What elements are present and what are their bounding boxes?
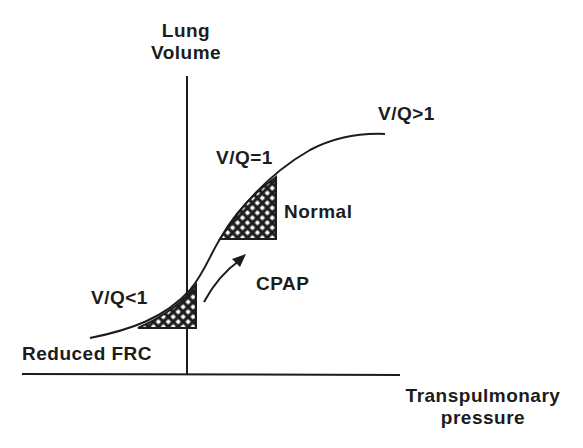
y-axis-label-line2: Volume xyxy=(148,42,224,64)
cpap-arrow xyxy=(204,260,240,302)
x-axis-label-line2: pressure xyxy=(388,407,578,429)
x-axis xyxy=(22,374,400,375)
y-axis-label: Lung Volume xyxy=(148,20,224,64)
x-axis-label: Transpulmonary pressure xyxy=(388,385,578,429)
diagram-canvas xyxy=(0,0,583,448)
hatched-region-normal xyxy=(220,177,276,239)
vq-normal-label: V/Q=1 xyxy=(216,147,273,169)
x-axis-label-line1: Transpulmonary xyxy=(388,385,578,407)
reduced-frc-label: Reduced FRC xyxy=(22,343,152,365)
cpap-label: CPAP xyxy=(256,273,309,295)
vq-low-label: V/Q<1 xyxy=(91,287,148,309)
vq-high-label: V/Q>1 xyxy=(378,103,435,125)
normal-label: Normal xyxy=(284,201,352,223)
y-axis-label-line1: Lung xyxy=(148,20,224,42)
